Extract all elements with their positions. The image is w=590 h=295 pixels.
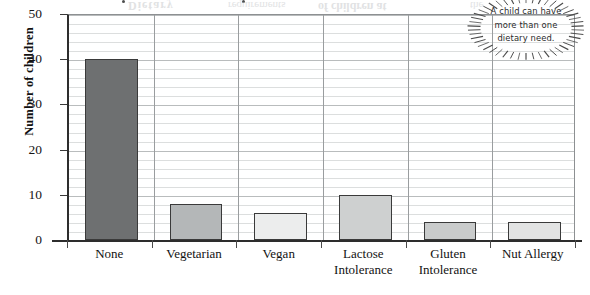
y-tick-label: 20	[29, 143, 43, 157]
category-label-line: None	[95, 246, 123, 261]
x-tick-mark	[575, 240, 576, 248]
bar-nut-allergy[interactable]	[508, 222, 560, 240]
y-tick-mark	[60, 14, 67, 15]
bleed-text-2: requirements	[228, 0, 285, 12]
y-tick-label: 40	[29, 52, 43, 66]
starburst-ray	[559, 45, 568, 50]
starburst-ray	[544, 51, 549, 57]
category-label-vegetarian: Vegetarian	[152, 246, 237, 262]
bleed-dot-right	[242, 0, 245, 3]
y-axis-ticks: 01020304050	[0, 0, 52, 295]
starburst-callout-text: A child can havemore than onedietary nee…	[476, 5, 576, 46]
bar-vegetarian[interactable]	[170, 204, 222, 240]
category-label-line: Nut Allergy	[502, 246, 564, 261]
starburst-ray	[503, 51, 508, 57]
starburst-ray	[550, 49, 557, 55]
starburst-ray	[538, 0, 542, 4]
starburst-ray	[538, 52, 541, 59]
callout-line: more than one	[476, 19, 576, 33]
starburst-ray	[555, 47, 563, 52]
y-tick-label: 50	[29, 7, 43, 21]
y-tick-label: 0	[35, 233, 42, 247]
callout-line: dietary need.	[476, 32, 576, 46]
category-label-line: Gluten	[430, 246, 465, 261]
category-label-gluten-intolerance: GlutenIntolerance	[406, 246, 491, 278]
category-label-line: Lactose	[343, 246, 383, 261]
starburst-callout: A child can havemore than onedietary nee…	[462, 0, 590, 60]
category-label-none: None	[67, 246, 152, 262]
bleed-text-3: of children at	[318, 0, 386, 14]
starburst-ray	[495, 49, 502, 55]
callout-line: A child can have	[476, 5, 576, 19]
bar-vegan[interactable]	[254, 213, 306, 240]
bar-gluten-intolerance[interactable]	[424, 222, 476, 240]
category-label-line: Vegetarian	[166, 246, 222, 261]
bar-lactose-intolerance[interactable]	[339, 195, 391, 240]
y-tick-label: 30	[29, 98, 43, 112]
starburst-ray	[510, 52, 513, 58]
category-label-line: Vegan	[262, 246, 295, 261]
starburst-ray	[518, 53, 520, 60]
y-tick-mark	[60, 195, 67, 196]
starburst-ray	[510, 0, 513, 4]
starburst-ray	[532, 53, 534, 60]
bleed-text-1: Dietary	[128, 0, 174, 13]
y-tick-mark	[60, 59, 67, 60]
category-label-lactose-intolerance: LactoseIntolerance	[321, 246, 406, 278]
starburst-ray	[483, 45, 492, 50]
starburst-ray	[518, 0, 520, 3]
y-tick-mark	[60, 150, 67, 151]
category-label-line: Intolerance	[321, 262, 406, 278]
category-label-vegan: Vegan	[236, 246, 321, 262]
x-axis-category-labels: NoneVegetarianVeganLactoseIntoleranceGlu…	[67, 246, 575, 294]
chart-screenshot: Dietary requirements of children at the …	[0, 0, 590, 295]
category-label-line: Intolerance	[406, 262, 491, 278]
y-tick-mark	[60, 104, 67, 105]
bleed-dot-left	[122, 0, 125, 3]
category-label-nut-allergy: Nut Allergy	[490, 246, 575, 262]
bar-none[interactable]	[85, 59, 137, 240]
starburst-ray	[532, 0, 534, 3]
y-tick-label: 10	[29, 188, 43, 202]
starburst-ray	[489, 47, 497, 52]
x-axis-line	[52, 240, 582, 242]
